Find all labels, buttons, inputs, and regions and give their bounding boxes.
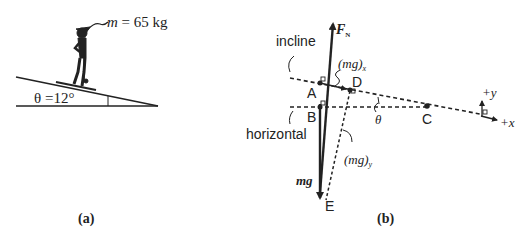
mgy-label: (mg)y	[344, 152, 373, 169]
x-axis-label: +x	[500, 115, 515, 130]
weight-label: mg	[296, 173, 313, 188]
axes-right-angle-marker	[483, 110, 487, 114]
right-angle-marker-b	[321, 101, 325, 105]
mgx-leader-line	[335, 70, 340, 86]
point-b-dot	[318, 105, 323, 110]
horizontal-leader-line	[289, 111, 293, 124]
panel-b-caption: (b)	[377, 211, 394, 227]
angle-label: θ =12°	[34, 90, 74, 106]
mgy-dashed-line	[326, 91, 350, 200]
mgx-arrow	[320, 83, 346, 89]
point-c-dot	[424, 103, 430, 109]
point-a-dot	[318, 81, 323, 86]
point-e-label: E	[325, 198, 334, 214]
panel-a: m = 65 kg θ =12° (a)	[16, 14, 168, 227]
right-angle-marker-a	[321, 77, 325, 81]
incline-leader-line	[289, 56, 294, 72]
skier-icon	[74, 27, 90, 86]
mass-leader-line	[88, 22, 108, 29]
theta-label: θ	[375, 112, 382, 127]
point-b-label: B	[307, 109, 316, 125]
y-axis-label: +y	[482, 85, 497, 100]
mgx-label: (mg)x	[338, 56, 367, 73]
x-axis-arrow	[481, 116, 497, 120]
normal-force-label: FN	[335, 22, 350, 39]
panel-a-caption: (a)	[78, 211, 95, 227]
point-a-label: A	[307, 85, 317, 101]
point-d-label: D	[352, 74, 362, 90]
mgy-leader-line	[343, 130, 352, 142]
free-body-diagram: m = 65 kg θ =12° (a)	[0, 0, 529, 241]
point-c-label: C	[422, 111, 432, 127]
panel-b: FN incline horizontal (mg)x (mg)y mg θ A…	[246, 22, 515, 227]
horizontal-label: horizontal	[246, 126, 307, 142]
mass-label: m = 65 kg	[107, 14, 168, 30]
theta-arc-icon	[378, 97, 379, 104]
incline-label: incline	[276, 33, 316, 49]
